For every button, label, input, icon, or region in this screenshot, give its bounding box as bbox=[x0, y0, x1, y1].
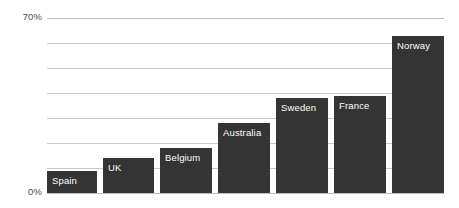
bar-label-uk: UK bbox=[108, 162, 122, 173]
bar-belgium: Belgium bbox=[160, 148, 212, 193]
bars-layer: Spain UK Belgium Australia Sweden France… bbox=[47, 18, 444, 193]
bar-chart: Spain UK Belgium Australia Sweden France… bbox=[0, 0, 459, 208]
y-axis-tick-top: 70% bbox=[2, 11, 42, 22]
bar-australia: Australia bbox=[218, 123, 270, 193]
bar-label-spain: Spain bbox=[52, 175, 77, 186]
bar-norway: Norway bbox=[392, 36, 444, 194]
y-axis: 70% 0% bbox=[0, 0, 42, 208]
y-axis-tick-bottom: 0% bbox=[2, 186, 42, 197]
bar-label-sweden: Sweden bbox=[281, 102, 316, 113]
bar-france: France bbox=[334, 96, 386, 194]
bar-sweden: Sweden bbox=[276, 98, 328, 193]
bar-label-australia: Australia bbox=[223, 127, 261, 138]
bar-label-france: France bbox=[339, 100, 369, 111]
bar-label-belgium: Belgium bbox=[165, 152, 200, 163]
bar-spain: Spain bbox=[47, 171, 97, 194]
bar-label-norway: Norway bbox=[397, 40, 430, 51]
axis-baseline bbox=[47, 193, 444, 194]
bar-uk: UK bbox=[103, 158, 154, 193]
